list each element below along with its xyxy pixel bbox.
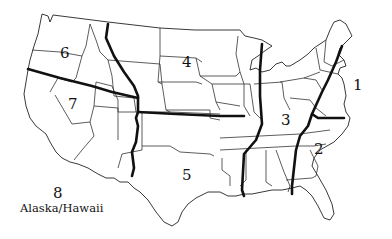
us-outline <box>24 14 352 226</box>
region-label-8-sub: Alaska/Hawaii <box>20 203 103 215</box>
region-label-6: 6 <box>60 46 70 61</box>
region-label-8: 8 <box>53 186 63 201</box>
region-label-4: 4 <box>182 55 192 70</box>
region-label-7: 7 <box>68 97 78 112</box>
region-label-5: 5 <box>182 168 192 183</box>
region-label-2: 2 <box>314 142 324 157</box>
region-label-3: 3 <box>281 113 291 128</box>
region-label-1: 1 <box>353 78 363 93</box>
